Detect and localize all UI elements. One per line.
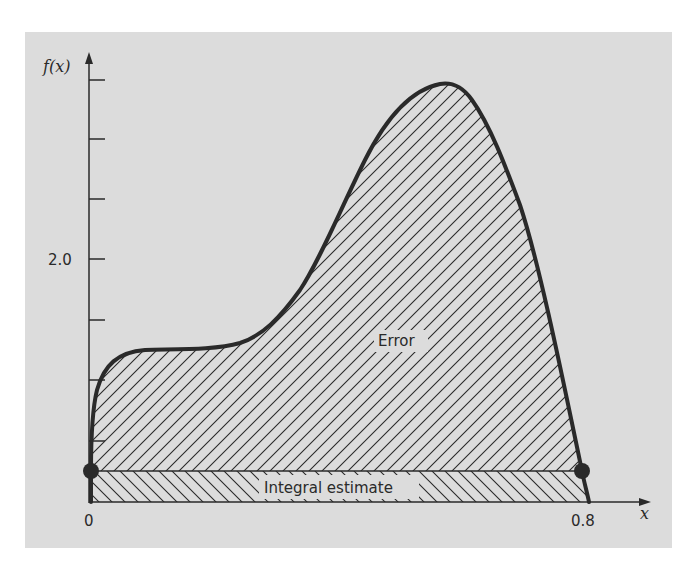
- x-tick-label-0.8: 0.8: [571, 512, 595, 530]
- endpoint-marker-right: [574, 463, 590, 479]
- error-label: Error: [378, 332, 415, 350]
- y-tick-label-2: 2.0: [48, 251, 72, 269]
- chart-svg: f(x) 2.0 x 0 0.8 Error Integral estimate: [0, 0, 698, 579]
- y-axis-label: f(x): [42, 57, 70, 76]
- error-region: [85, 75, 595, 475]
- y-axis-arrow-icon: [85, 52, 93, 64]
- integral-estimate-label: Integral estimate: [264, 479, 393, 497]
- x-tick-label-0: 0: [84, 512, 94, 530]
- x-axis-label: x: [640, 504, 649, 523]
- x-axis: x 0 0.8: [84, 498, 651, 530]
- endpoint-marker-left: [83, 463, 99, 479]
